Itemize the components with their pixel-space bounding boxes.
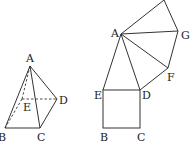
net-label-g: G xyxy=(181,29,190,42)
net-label-c: C xyxy=(137,131,145,143)
pyramid-label-e: E xyxy=(23,101,31,114)
net-label-e: E xyxy=(94,89,102,102)
pyramid-label-b: B xyxy=(0,131,6,143)
pyramid-label-a: A xyxy=(25,52,35,65)
geometry-figure: A D E B C A G F D E B C xyxy=(0,0,190,143)
net-figure: A G F D E B C xyxy=(94,0,190,143)
net-label-a: A xyxy=(110,27,120,40)
net-label-d: D xyxy=(142,89,151,102)
pyramid-label-c: C xyxy=(37,131,45,143)
pyramid-figure: A D E B C xyxy=(0,52,68,143)
net-label-b: B xyxy=(100,131,108,143)
net-label-f: F xyxy=(167,71,175,84)
pyramid-label-d: D xyxy=(59,94,68,107)
